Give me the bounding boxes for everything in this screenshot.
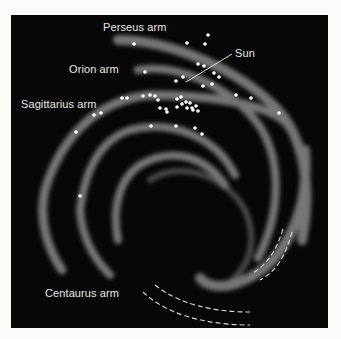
star-dot: [193, 126, 197, 130]
star-dot: [185, 41, 189, 45]
galaxy-arms: [11, 15, 328, 328]
star-dot: [206, 33, 210, 37]
star-dot: [174, 79, 178, 83]
star-dot: [201, 84, 205, 88]
star-dot: [153, 94, 157, 98]
star-dot: [74, 130, 78, 134]
star-dot: [194, 104, 198, 108]
star-dot: [210, 82, 214, 86]
orion-arm-label: Orion arm: [69, 63, 119, 75]
star-dot: [120, 96, 124, 100]
star-dot: [202, 64, 206, 68]
star-dot: [175, 105, 179, 109]
star-dot: [132, 42, 136, 46]
star-dot: [234, 93, 238, 97]
star-dot: [143, 70, 147, 74]
sun-label: Sun: [235, 47, 255, 59]
star-dot: [165, 110, 169, 114]
star-dot: [277, 111, 281, 115]
star-dot: [188, 101, 192, 105]
star-dot: [200, 132, 204, 136]
galaxy-diagram: Perseus arm Orion arm Sagittarius arm Ce…: [11, 15, 328, 328]
centaurus-dashed-lines: [143, 229, 292, 325]
star-dot: [125, 96, 129, 100]
star-dot: [181, 75, 185, 79]
star-dot: [179, 95, 183, 99]
star-dot: [158, 106, 162, 110]
star-dot: [175, 97, 179, 101]
star-dot: [149, 124, 153, 128]
star-dot: [185, 106, 189, 110]
star-dot: [174, 124, 178, 128]
star-dot: [196, 109, 200, 113]
star-dot: [148, 93, 152, 97]
star-dot: [78, 194, 82, 198]
star-dot: [184, 100, 188, 104]
sagittarius-arm-label: Sagittarius arm: [21, 98, 96, 110]
star-dot: [180, 102, 184, 106]
star-dot: [191, 108, 195, 112]
star-dot: [92, 113, 96, 117]
star-dot: [249, 96, 253, 100]
centaurus-arm-label: Centaurus arm: [45, 287, 119, 299]
star-dot: [217, 75, 221, 79]
perseus-arm-label: Perseus arm: [103, 21, 166, 33]
star-dot: [203, 42, 207, 46]
star-dot: [196, 62, 200, 66]
star-dot: [212, 71, 216, 75]
star-dot: [156, 98, 160, 102]
spiral-arms: [43, 40, 307, 286]
star-dot: [141, 94, 145, 98]
star-dot: [99, 111, 103, 115]
